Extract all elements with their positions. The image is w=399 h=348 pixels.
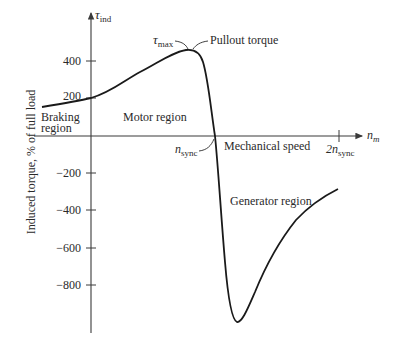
x-axis-symbol: nm [367,128,380,144]
torque-speed-curve [42,50,338,322]
y-tick-label-m600: −600 [56,241,81,255]
pullout-pointer [193,41,208,49]
generator-region-label: Generator region [230,194,312,208]
nsync-label: nsync [175,142,198,158]
y-tick-label-400: 400 [63,54,81,68]
tau-max-pointer [175,41,188,49]
y-tick-label-m800: −800 [56,278,81,292]
motor-region-label: Motor region [123,110,187,124]
pullout-torque-label: Pullout torque [210,33,278,47]
torque-speed-chart: 400 200 −200 −400 −600 −800 τind nm Indu… [0,0,399,348]
y-axis-symbol: τind [95,7,112,24]
braking-region-label: Braking region [41,110,83,135]
two-nsync-label: 2nsync [326,142,355,158]
mechanical-speed-label: Mechanical speed [224,139,310,153]
nsync-pointer [199,139,214,151]
y-tick-label-m200: −200 [56,166,81,180]
y-tick-label-m400: −400 [56,203,81,217]
tau-max-label: τmax [153,32,174,49]
y-axis-title: Induced torque, % of full load [24,90,38,235]
